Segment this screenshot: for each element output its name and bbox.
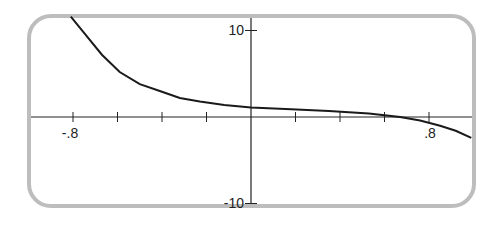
function-plot: -.8 .8 10 -10 [0, 0, 490, 228]
y-tick-label-neg-10: -10 [224, 195, 244, 211]
function-curve [71, 17, 472, 138]
x-tick-label-0.8: .8 [424, 125, 436, 141]
y-tick-label-10: 10 [228, 22, 244, 38]
x-tick-label-neg-0.8: -.8 [62, 125, 79, 141]
